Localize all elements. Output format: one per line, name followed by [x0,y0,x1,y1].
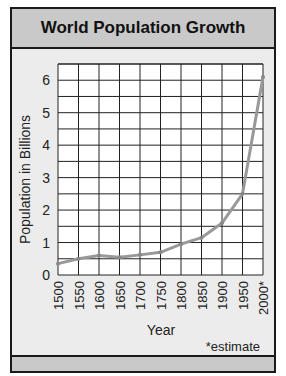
y-tick-label: 1 [42,235,50,251]
x-tick-label: 1550 [72,281,87,310]
data-point [97,254,101,258]
y-tick-label: 0 [42,267,50,283]
x-tick-label: 1650 [113,281,128,310]
x-tick-label: 1700 [133,281,148,310]
line-chart: 0123456150015501600165017001750180018501… [0,0,286,376]
y-axis-label: Population in Billions [17,115,33,244]
x-tick-label: 1750 [154,281,169,310]
x-tick-label: 1850 [195,281,210,310]
data-point [241,192,245,196]
x-tick-label: 2000* [256,281,271,315]
x-tick-label: 1800 [174,281,189,310]
y-tick-label: 3 [42,170,50,186]
y-tick-label: 5 [42,105,50,121]
x-tick-label: 1600 [92,281,107,310]
x-tick-label: 1900 [215,281,230,310]
data-point [56,262,60,266]
y-tick-label: 6 [42,72,50,88]
x-tick-label: 1500 [51,281,66,310]
data-point [77,257,81,261]
data-point [220,221,224,225]
footnote: *estimate [206,339,260,354]
y-tick-label: 4 [42,137,50,153]
y-tick-label: 2 [42,202,50,218]
data-point [118,255,122,259]
data-point [179,242,183,246]
data-point [200,236,204,240]
data-point [138,253,142,257]
x-axis-label: Year [147,322,176,338]
data-point [159,250,163,254]
x-tick-label: 1950 [236,281,251,310]
data-point [261,75,265,79]
